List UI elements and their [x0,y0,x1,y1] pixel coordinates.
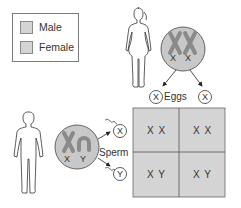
sperm-tail-icon [105,119,117,124]
sperm-text-label: Sperm [99,147,128,158]
eggs-label: Eggs [164,91,187,102]
sperm-label: Y [114,169,126,179]
punnett-cell: X X [180,125,225,136]
punnett-cell: X X [134,125,179,136]
sperm-label: X [114,126,126,136]
punnett-cell: X Y [180,169,225,180]
female-chromosome-label: X [170,53,176,63]
male-chromosome-label: X [64,154,70,164]
egg-label: X [150,92,162,102]
egg-label: X [199,92,211,102]
male-chromosome-label: Y [80,154,86,164]
male-nucleus-icon [55,125,99,169]
punnett-square [133,108,225,197]
female-figure-icon [126,8,151,87]
punnett-cell: X Y [134,169,179,180]
female-nucleus-icon [161,27,205,71]
male-figure-icon [14,112,43,193]
female-chromosome-label: X [185,53,191,63]
